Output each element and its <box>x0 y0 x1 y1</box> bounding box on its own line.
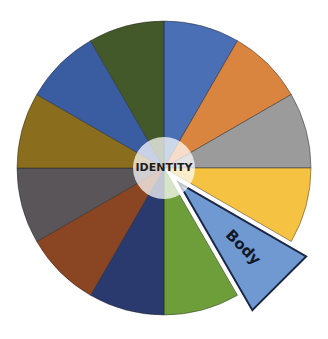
identity-wheel: Body IDENTITY <box>0 0 328 339</box>
identity-hub: IDENTITY <box>133 137 195 199</box>
hub-label: IDENTITY <box>135 161 193 174</box>
